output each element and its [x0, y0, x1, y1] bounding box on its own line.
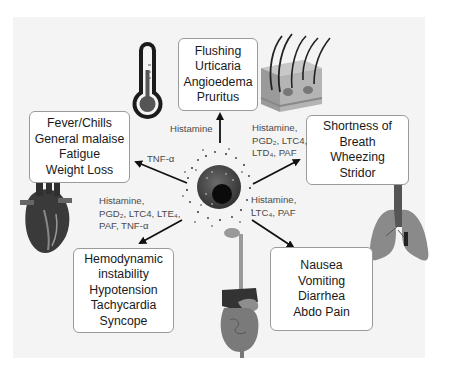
box-line: Vomiting [298, 274, 345, 290]
arrow-to-respiratory [253, 160, 299, 184]
box-line: Syncope [100, 314, 148, 330]
box-line: General malaise [35, 132, 125, 148]
box-line: Wheezing [330, 150, 385, 166]
skin-symptoms-box: Flushing Urticaria Angioedema Pruritus [178, 38, 258, 111]
box-line: Diarrhea [298, 289, 345, 305]
box-line: Abdo Pain [293, 305, 350, 321]
label-line: PAF, TNF-α [99, 220, 180, 233]
constitutional-symptoms-box: Fever/Chills General malaise Fatigue Wei… [29, 111, 130, 183]
label-line: LTD₄, PAF [252, 147, 307, 160]
mediator-label-respiratory: Histamine, PGD₂, LTC4, LTD₄, PAF [252, 122, 307, 160]
box-line: Tachycardia [91, 298, 157, 314]
box-line: Shortness of [323, 119, 392, 135]
label-line: LTC₄, PAF [251, 207, 296, 220]
heart-icon [20, 174, 72, 253]
box-line: Fatigue [59, 147, 100, 163]
label-line: Histamine, [99, 195, 180, 208]
box-line: Pruritus [197, 90, 239, 106]
box-line: Hypotension [89, 283, 157, 299]
mediator-label-cardiovascular: Histamine, PGD₂, LTC4, LTE₄, PAF, TNF-α [99, 195, 180, 233]
box-line: instability [98, 267, 149, 283]
thermometer-icon [133, 42, 163, 119]
label-line: PGD₂, LTC4, [252, 135, 307, 148]
mediator-label-gastrointestinal: Histamine, LTC₄, PAF [251, 194, 296, 219]
label-line: PGD₂, LTC4, LTE₄, [99, 208, 180, 221]
box-line: Weight Loss [46, 163, 113, 179]
label-line: Histamine, [252, 122, 307, 135]
digestive-tract-icon [221, 228, 259, 358]
gastrointestinal-symptoms-box: Nausea Vomiting Diarrhea Abdo Pain [270, 247, 373, 331]
skin-cross-section-icon [261, 34, 330, 112]
cardiovascular-symptoms-box: Hemodynamic instability Hypotension Tach… [73, 248, 174, 333]
arrow-to-gastrointestinal [252, 220, 293, 247]
box-line: Fever/Chills [47, 116, 112, 132]
box-line: Breath [339, 135, 375, 151]
label-line: Histamine [170, 123, 213, 136]
mediator-label-constitutional: TNF-α [147, 153, 174, 166]
respiratory-symptoms-box: Shortness of Breath Wheezing Stridor [306, 115, 409, 185]
box-line: Angioedema [183, 75, 252, 91]
mast-cell-icon [182, 148, 255, 227]
box-line: Stridor [339, 166, 375, 182]
mediator-label-skin: Histamine [170, 123, 213, 136]
box-line: Hemodynamic [84, 252, 163, 268]
box-line: Flushing [195, 44, 241, 60]
box-line: Nausea [300, 258, 342, 274]
label-line: Histamine, [251, 194, 296, 207]
lungs-icon [370, 185, 429, 261]
box-line: Urticaria [195, 59, 241, 75]
label-line: TNF-α [147, 153, 174, 166]
